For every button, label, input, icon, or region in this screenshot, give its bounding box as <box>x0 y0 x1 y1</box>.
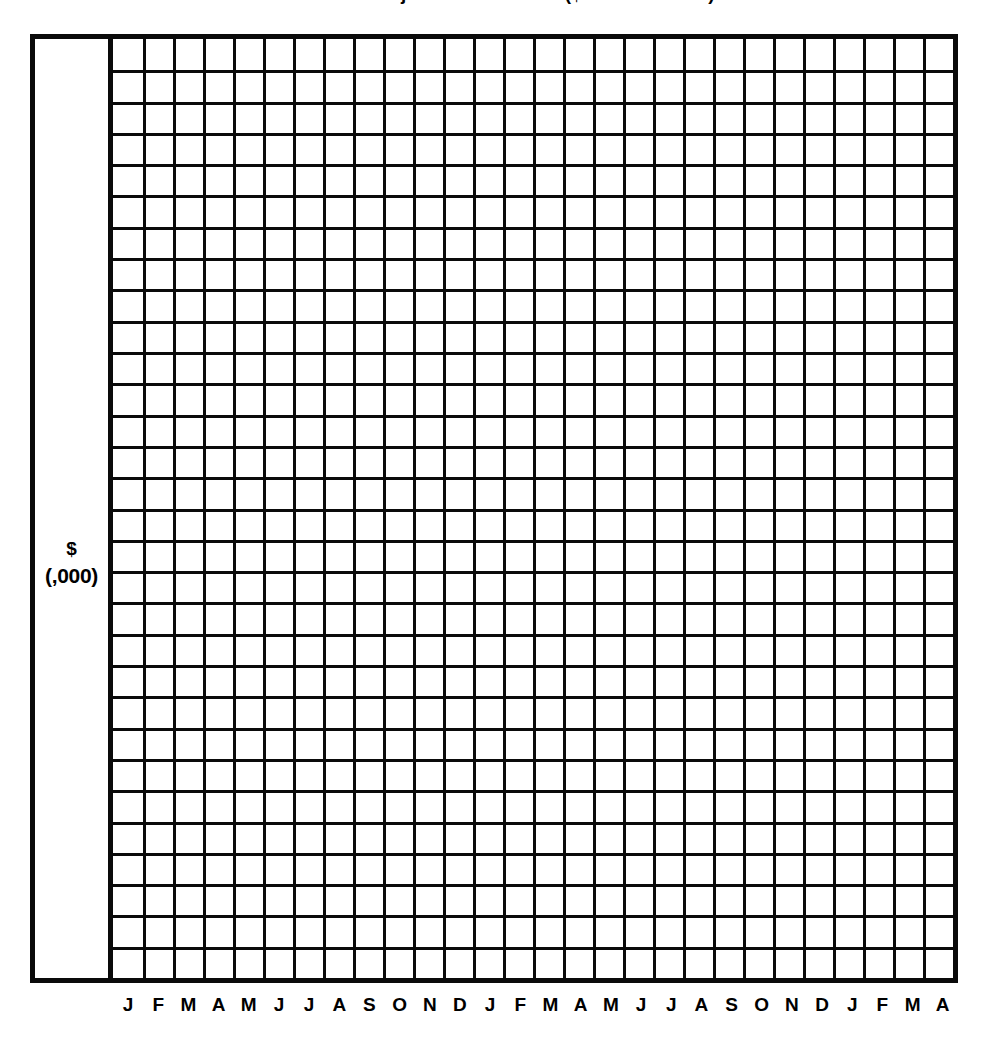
x-tick-label: J <box>656 990 686 1022</box>
grid-hline <box>113 446 953 449</box>
grid-hline <box>113 102 953 105</box>
grid-hline <box>113 822 953 825</box>
grid-hline <box>113 665 953 668</box>
grid-hline <box>113 383 953 386</box>
grid-hline <box>113 540 953 543</box>
x-tick-label: D <box>445 990 475 1022</box>
grid-hline <box>113 352 953 355</box>
grid-hline <box>113 477 953 480</box>
x-tick-label: F <box>867 990 897 1022</box>
x-tick-label: D <box>807 990 837 1022</box>
grid-hline <box>113 759 953 762</box>
x-tick-label: M <box>234 990 264 1022</box>
x-tick-label: J <box>294 990 324 1022</box>
x-tick-label: F <box>143 990 173 1022</box>
x-tick-label: O <box>747 990 777 1022</box>
x-tick-label: S <box>716 990 746 1022</box>
y-axis-label: $ (,000) <box>35 536 108 591</box>
chart-frame: $ (,000) <box>30 34 958 983</box>
x-tick-label: M <box>596 990 626 1022</box>
x-tick-label: J <box>113 990 143 1022</box>
grid-hline <box>113 415 953 418</box>
chart-title-strip: Exhibit 1 Projected Cash Flow ($ in thou… <box>0 0 997 9</box>
x-tick-label: M <box>535 990 565 1022</box>
grid-hline <box>113 509 953 512</box>
y-axis-currency-symbol: $ <box>35 536 108 562</box>
grid-hline <box>113 696 953 699</box>
x-tick-label: J <box>264 990 294 1022</box>
x-tick-label: A <box>686 990 716 1022</box>
grid-hline <box>113 853 953 856</box>
x-tick-label: J <box>475 990 505 1022</box>
grid-hline <box>113 195 953 198</box>
grid-hline <box>113 571 953 574</box>
x-tick-label: N <box>415 990 445 1022</box>
x-tick-label: S <box>354 990 384 1022</box>
grid-hline <box>113 790 953 793</box>
page-title: Exhibit 1 Projected Cash Flow ($ in thou… <box>0 0 997 5</box>
grid-hline <box>113 634 953 637</box>
y-axis-panel: $ (,000) <box>35 39 113 978</box>
x-tick-label: M <box>173 990 203 1022</box>
x-tick-label: J <box>837 990 867 1022</box>
grid-hline <box>113 133 953 136</box>
x-tick-label: A <box>566 990 596 1022</box>
grid-hline <box>113 728 953 731</box>
grid-hline <box>113 602 953 605</box>
x-tick-label: A <box>204 990 234 1022</box>
x-tick-label: M <box>897 990 927 1022</box>
grid-hline <box>113 164 953 167</box>
x-tick-label: J <box>626 990 656 1022</box>
x-tick-label: F <box>505 990 535 1022</box>
grid-hline <box>113 258 953 261</box>
grid-hline <box>113 70 953 73</box>
x-tick-label: A <box>324 990 354 1022</box>
plot-area <box>113 39 953 978</box>
x-tick-label: A <box>928 990 958 1022</box>
x-tick-label: N <box>777 990 807 1022</box>
grid-hline <box>113 289 953 292</box>
x-tick-label: O <box>385 990 415 1022</box>
chart-frame-inner: $ (,000) <box>35 39 953 978</box>
grid-hline <box>113 947 953 950</box>
grid-lines <box>113 39 953 978</box>
grid-hline <box>113 884 953 887</box>
grid-hline <box>113 321 953 324</box>
y-axis-scale-label: (,000) <box>35 562 108 591</box>
grid-hline <box>113 915 953 918</box>
grid-hline <box>113 227 953 230</box>
x-axis-labels: JFMAMJJASONDJFMAMJJASONDJFMA <box>113 990 958 1022</box>
